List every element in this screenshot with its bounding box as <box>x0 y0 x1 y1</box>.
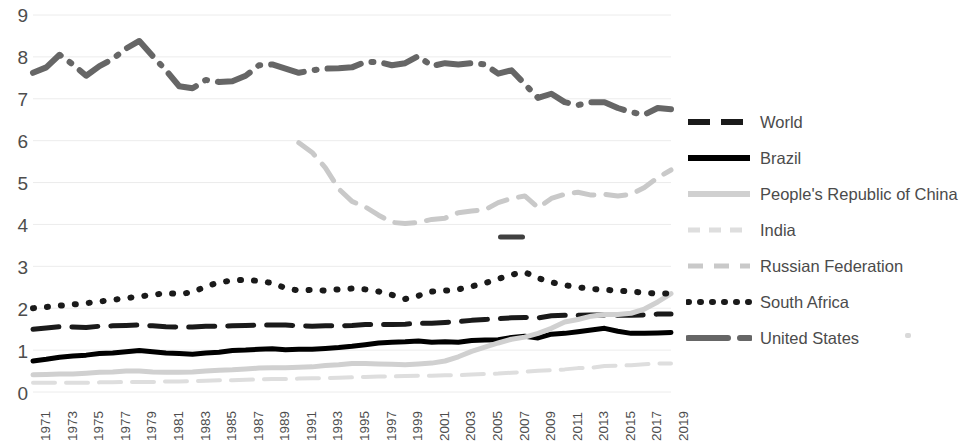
x-axis-tick-label: 2017 <box>650 411 664 441</box>
x-axis-tick-label: 1993 <box>331 411 345 441</box>
legend-label: India <box>760 222 796 239</box>
x-axis-tick-label: 1999 <box>411 411 425 441</box>
x-axis-tick-label: 1983 <box>199 411 213 441</box>
x-axis-tick-label: 2003 <box>464 411 478 441</box>
legend-key-icon <box>686 115 752 129</box>
legend-key-icon <box>686 295 752 309</box>
legend-item-brazil[interactable]: Brazil <box>686 140 962 176</box>
x-axis-tick-label: 1997 <box>385 411 399 441</box>
legend-label: Russian Federation <box>760 258 903 275</box>
x-axis-tick-label: 1981 <box>172 411 186 441</box>
legend-label: Brazil <box>760 150 801 167</box>
series-line <box>299 143 671 224</box>
x-axis-tick-label: 1971 <box>39 411 53 441</box>
chart-container: 9 8 7 6 5 4 3 2 1 0 19711973197519771979… <box>0 0 962 445</box>
legend-label: South Africa <box>760 294 849 311</box>
x-axis-tick-label: 1979 <box>145 411 159 441</box>
legend-key-icon <box>686 259 752 273</box>
x-axis-tick-label: 1995 <box>358 411 372 441</box>
x-axis-tick-label: 2007 <box>518 411 532 441</box>
x-axis-tick-label: 1991 <box>305 411 319 441</box>
legend-item-india[interactable]: India <box>686 212 962 248</box>
x-axis-tick-label: 2005 <box>491 411 505 441</box>
legend-label: People's Republic of China <box>760 186 958 203</box>
legend-item-russian-federation[interactable]: Russian Federation <box>686 248 962 284</box>
stray-mark <box>905 333 911 338</box>
x-axis-tick-label: 2015 <box>624 411 638 441</box>
x-axis-tick-label: 1975 <box>92 411 106 441</box>
x-axis-tick-label: 2009 <box>544 411 558 441</box>
x-axis-tick-label: 1977 <box>119 411 133 441</box>
legend-item-people-s-republic-of-china[interactable]: People's Republic of China <box>686 176 962 212</box>
legend-label: United States <box>760 330 859 347</box>
legend-label: World <box>760 114 803 131</box>
legend-item-world[interactable]: World <box>686 104 962 140</box>
series-line <box>33 328 671 361</box>
legend-item-south-africa[interactable]: South Africa <box>686 284 962 320</box>
x-axis-tick-label: 1973 <box>66 411 80 441</box>
series-line <box>33 272 671 308</box>
legend-item-united-states[interactable]: United States <box>686 320 962 356</box>
legend-key-icon <box>686 331 752 345</box>
x-axis-tick-label: 2019 <box>677 411 691 441</box>
x-axis-tick-label: 2011 <box>571 412 585 441</box>
series-line <box>33 41 671 115</box>
x-axis-tick-label: 2001 <box>438 411 452 441</box>
chart-legend: WorldBrazilPeople's Republic of ChinaInd… <box>686 104 962 356</box>
legend-key-icon <box>686 187 752 201</box>
legend-key-icon <box>686 223 752 237</box>
x-axis-tick-label: 2013 <box>597 411 611 441</box>
x-axis-tick-label: 1987 <box>252 411 266 441</box>
x-axis-tick-label: 1989 <box>278 411 292 441</box>
x-axis-tick-label: 1985 <box>225 411 239 441</box>
legend-key-icon <box>686 151 752 165</box>
